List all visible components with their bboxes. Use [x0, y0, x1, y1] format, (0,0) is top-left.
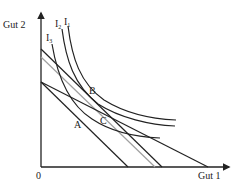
- origin-label: 0: [36, 170, 41, 181]
- budget-line-lower-flat: [41, 82, 208, 167]
- indifference-curve-i2: [62, 29, 175, 126]
- budget-line-lower-steep: [41, 82, 128, 167]
- point-label-b: B: [89, 85, 96, 96]
- budget-line-upper: [41, 49, 162, 167]
- budget-line-gray: [41, 57, 155, 167]
- x-axis-label: Gut 1: [198, 170, 221, 181]
- curve-label-i2: I2: [55, 18, 61, 30]
- indifference-diagram: Gut 2 Gut 1 0 I3 I2 I1 B A C: [0, 0, 237, 191]
- point-label-c: C: [100, 115, 107, 126]
- indifference-curve-i1: [68, 26, 176, 120]
- point-label-a: A: [74, 119, 82, 130]
- curve-label-i3: I3: [46, 32, 52, 44]
- y-axis-label: Gut 2: [3, 19, 26, 30]
- curve-label-i1: I1: [64, 16, 70, 28]
